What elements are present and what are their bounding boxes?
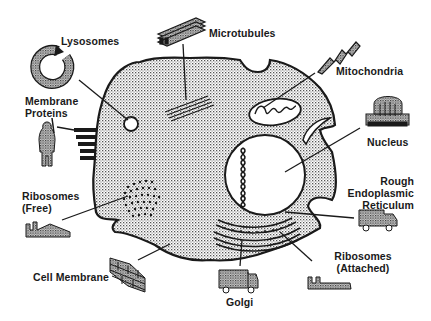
guard-person-icon (39, 118, 55, 166)
brick-wall-icon (110, 258, 145, 292)
factory-icon (26, 222, 70, 237)
label-text: Cell Membrane (33, 271, 109, 283)
label-ribosomes-attached: Ribosomes (Attached) (333, 250, 393, 274)
label-nucleus: Nucleus (367, 136, 409, 148)
label-lysosomes: Lysosomes (61, 35, 119, 47)
label-cell-membrane: Cell Membrane (33, 271, 109, 283)
label-text: Endoplasmic (345, 187, 414, 199)
delivery-truck-icon (219, 270, 258, 293)
nucleus (225, 135, 305, 215)
label-text: Rough (345, 175, 414, 187)
label-text: Microtubules (209, 27, 276, 39)
label-rough-er: Rough Endoplasmic Reticulum (345, 175, 414, 211)
label-text: Lysosomes (61, 35, 119, 47)
label-text: Membrane (25, 95, 78, 107)
label-text: Ribosomes (22, 190, 80, 202)
label-text: (Free) (22, 202, 80, 214)
label-text: Nucleus (367, 136, 409, 148)
delivery-truck-icon (359, 210, 397, 231)
label-text: Ribosomes (333, 250, 393, 262)
label-golgi: Golgi (226, 296, 253, 308)
label-text: Proteins (25, 107, 78, 119)
label-text: Reticulum (345, 199, 414, 211)
factory-icon (308, 277, 351, 289)
label-microtubules: Microtubules (209, 27, 276, 39)
label-text: (Attached) (333, 262, 393, 274)
label-text: Golgi (226, 296, 253, 308)
membrane-proteins-bars (74, 128, 96, 160)
label-ribosomes-free: Ribosomes (Free) (22, 190, 80, 214)
label-mitochondria: Mitochondria (336, 65, 403, 77)
capitol-building-icon (366, 97, 409, 127)
label-membrane-proteins: Membrane Proteins (25, 95, 78, 119)
stacked-beams-icon (158, 18, 205, 46)
label-text: Mitochondria (336, 65, 403, 77)
recycling-ring-icon (35, 45, 69, 84)
